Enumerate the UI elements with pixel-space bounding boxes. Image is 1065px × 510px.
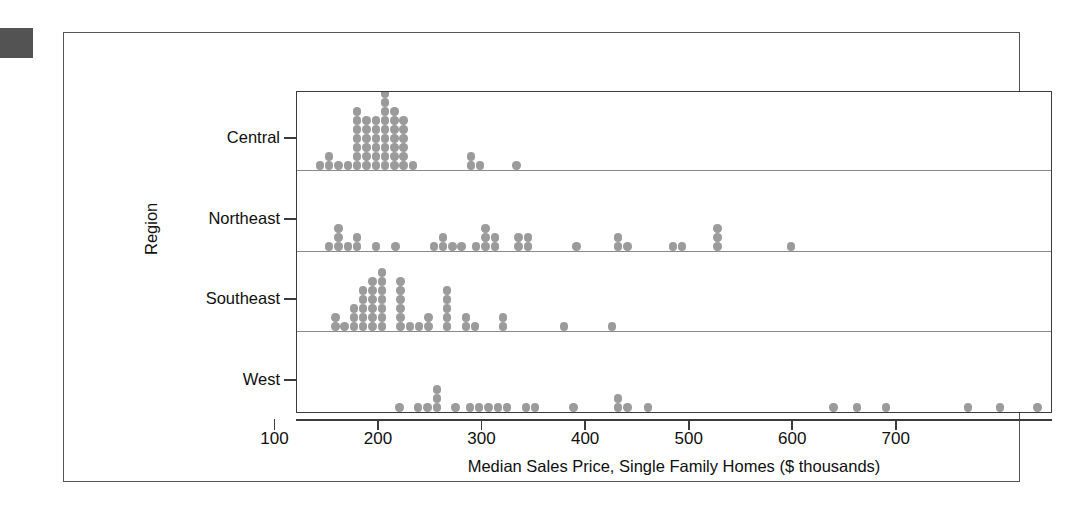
data-dot [443, 295, 451, 303]
data-dot [359, 295, 367, 303]
data-dot [424, 322, 432, 330]
data-dot [362, 161, 370, 169]
data-dot [560, 322, 568, 330]
x-axis-tick-label: 100 [260, 429, 288, 449]
data-dot [443, 286, 451, 294]
data-dot [399, 134, 407, 142]
data-dot [344, 161, 352, 169]
data-dot [829, 403, 837, 411]
data-dot [334, 161, 342, 169]
data-dot [396, 277, 404, 285]
data-dot [381, 161, 389, 169]
data-dot [409, 161, 417, 169]
data-dot [448, 242, 456, 250]
data-dot [457, 242, 465, 250]
data-dot [362, 143, 370, 151]
data-dot [614, 242, 622, 250]
data-dot [623, 242, 631, 250]
data-dot [396, 304, 404, 312]
data-dot [713, 242, 721, 250]
data-dot [381, 152, 389, 160]
data-dot [325, 161, 333, 169]
data-dot [996, 403, 1004, 411]
data-dot [512, 161, 520, 169]
x-axis-tick-label: 500 [674, 429, 702, 449]
x-axis-tick-label: 600 [778, 429, 806, 449]
data-dot [353, 143, 361, 151]
figure-frame: Region CentralNortheastSoutheastWest 100… [63, 32, 1020, 482]
x-axis-line [296, 419, 1052, 421]
data-dot [481, 242, 489, 250]
data-dot [359, 286, 367, 294]
data-dot [531, 403, 539, 411]
data-dot [614, 394, 622, 402]
data-dot [359, 322, 367, 330]
data-dot [964, 403, 972, 411]
data-dot [381, 125, 389, 133]
data-dot [443, 322, 451, 330]
data-dot [514, 233, 522, 241]
data-dot [395, 403, 403, 411]
data-dot [362, 125, 370, 133]
x-axis-tick-label: 300 [467, 429, 495, 449]
data-dot [350, 304, 358, 312]
data-dot [853, 403, 861, 411]
data-dot [391, 242, 399, 250]
data-dot [503, 403, 511, 411]
data-dot [423, 403, 431, 411]
data-dot [378, 277, 386, 285]
data-dot [472, 242, 480, 250]
data-dot [399, 143, 407, 151]
data-dot [491, 233, 499, 241]
data-dot [362, 116, 370, 124]
data-dot [353, 107, 361, 115]
data-dot [372, 143, 380, 151]
data-dot [484, 403, 492, 411]
data-dot [353, 116, 361, 124]
data-dot [378, 313, 386, 321]
y-axis-label-west: West [243, 370, 280, 389]
data-dot [399, 116, 407, 124]
data-dot [368, 286, 376, 294]
data-dot [471, 322, 479, 330]
y-axis-labels: CentralNortheastSoutheastWest [64, 33, 280, 481]
data-dot [467, 152, 475, 160]
data-dot [430, 242, 438, 250]
data-dot [372, 125, 380, 133]
data-dot [514, 242, 522, 250]
data-dot [372, 161, 380, 169]
data-dot [353, 161, 361, 169]
data-dot [414, 403, 422, 411]
data-dot [372, 242, 380, 250]
y-axis-tick [284, 379, 296, 381]
corner-marker-block [0, 28, 33, 58]
data-dot [381, 98, 389, 106]
data-dot [644, 403, 652, 411]
data-dot [390, 143, 398, 151]
data-dot [481, 233, 489, 241]
data-dot [481, 224, 489, 232]
figure-root: Region CentralNortheastSoutheastWest 100… [0, 0, 1065, 510]
x-axis-tick-label: 200 [364, 429, 392, 449]
data-dot [1033, 403, 1041, 411]
data-dot [390, 134, 398, 142]
data-dot [467, 161, 475, 169]
data-dot [378, 304, 386, 312]
data-dot [390, 125, 398, 133]
data-dot [390, 107, 398, 115]
data-dot [623, 403, 631, 411]
data-dot [381, 116, 389, 124]
y-axis-label-northeast: Northeast [208, 209, 280, 228]
data-dot [399, 161, 407, 169]
data-dot [344, 242, 352, 250]
data-dot [424, 313, 432, 321]
y-axis-tick [284, 218, 296, 220]
data-dot [378, 295, 386, 303]
data-dot [415, 322, 423, 330]
data-dot [713, 233, 721, 241]
data-dot [390, 161, 398, 169]
data-dot [340, 322, 348, 330]
data-dot [499, 322, 507, 330]
data-dot [334, 242, 342, 250]
data-dot [396, 286, 404, 294]
